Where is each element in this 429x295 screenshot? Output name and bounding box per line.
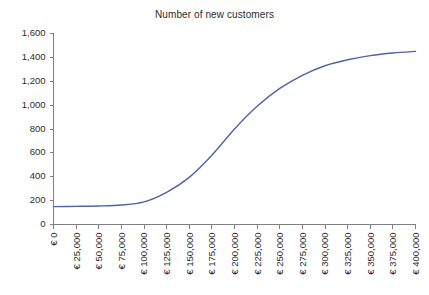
x-tick-label: € 50,000 — [93, 233, 104, 270]
y-tick-label: 600 — [30, 146, 46, 157]
x-tick-label: € 375,000 — [387, 233, 398, 275]
x-tick-label: € 325,000 — [342, 233, 353, 275]
y-tick-label: 1,600 — [22, 27, 46, 38]
y-tick-label: 1,200 — [22, 75, 46, 86]
line-chart-plot: 02004006008001,0001,2001,4001,600 € 0€ 2… — [0, 0, 429, 295]
x-axis-tick-labels: € 0€ 25,000€ 50,000€ 75,000€ 100,000€ 12… — [48, 233, 421, 275]
y-tick-label: 0 — [40, 218, 45, 229]
chart-page: Number of new customers 02004006008001,0… — [0, 0, 429, 295]
data-series-line — [54, 51, 416, 206]
x-tick-label: € 25,000 — [71, 233, 82, 270]
x-tick-label: € 250,000 — [274, 233, 285, 275]
x-tick-label: € 175,000 — [206, 233, 217, 275]
x-tick-label: € 200,000 — [229, 233, 240, 275]
y-axis-tick-marks — [50, 34, 54, 225]
x-tick-label: € 275,000 — [297, 233, 308, 275]
x-tick-label: € 100,000 — [138, 233, 149, 275]
x-tick-label: € 225,000 — [252, 233, 263, 275]
x-tick-label: € 0 — [48, 233, 59, 246]
y-axis-tick-labels: 02004006008001,0001,2001,4001,600 — [22, 27, 46, 229]
x-axis-tick-marks — [54, 225, 416, 229]
x-tick-label: € 300,000 — [319, 233, 330, 275]
x-tick-label: € 400,000 — [410, 233, 421, 275]
y-tick-label: 1,400 — [22, 51, 46, 62]
x-tick-label: € 75,000 — [116, 233, 127, 270]
x-tick-label: € 150,000 — [184, 233, 195, 275]
x-tick-label: € 125,000 — [161, 233, 172, 275]
y-tick-label: 800 — [30, 123, 46, 134]
y-tick-label: 200 — [30, 194, 46, 205]
x-tick-label: € 350,000 — [365, 233, 376, 275]
y-tick-label: 1,000 — [22, 99, 46, 110]
y-tick-label: 400 — [30, 170, 46, 181]
